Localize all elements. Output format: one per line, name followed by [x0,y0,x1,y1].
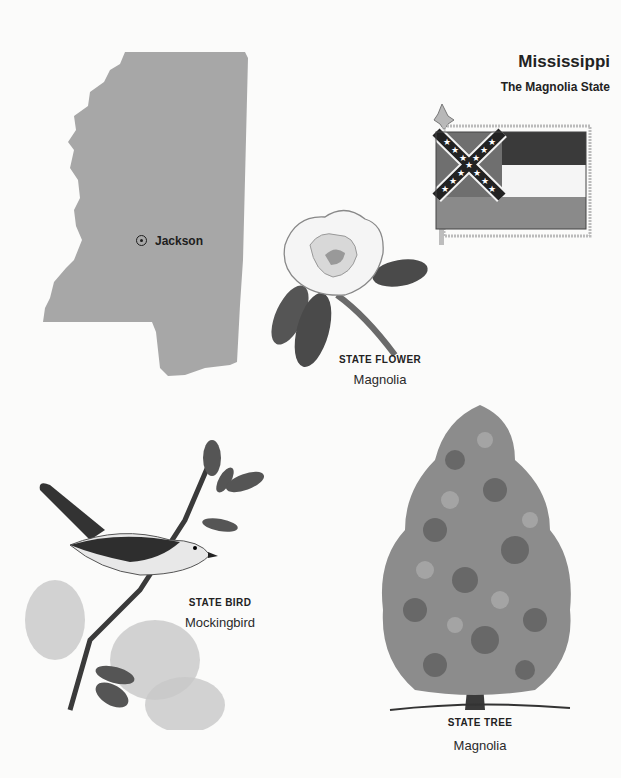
svg-text:★: ★ [473,168,481,178]
state-nickname: The Magnolia State [430,80,610,94]
svg-text:★: ★ [443,137,451,147]
svg-text:★: ★ [472,153,480,163]
state-flag: ★★★ ★★★★ ★★★ ★★★ [424,100,594,250]
mockingbird-illustration-icon [20,430,280,730]
capital-circle-dot-icon [136,235,147,246]
svg-text:★: ★ [449,176,457,186]
magnolia-flower-illustration-icon [265,205,435,375]
state-flower-illustration [265,205,435,375]
svg-text:★: ★ [451,145,459,155]
svg-text:★: ★ [480,145,488,155]
state-bird-name: Mockingbird [165,615,275,630]
state-flag-icon: ★★★ ★★★★ ★★★ ★★★ [424,100,594,250]
state-flower-heading: STATE FLOWER [320,354,440,365]
state-tree-name: Magnolia [430,738,530,753]
state-tree-illustration [375,400,585,720]
magnolia-tree-illustration-icon [375,400,585,720]
state-flower-name: Magnolia [320,372,440,387]
svg-text:★: ★ [488,184,496,194]
svg-text:★: ★ [441,184,449,194]
svg-text:★: ★ [457,168,465,178]
state-name-title: Mississippi [480,52,610,72]
state-bird-illustration [20,430,280,730]
state-tree-heading: STATE TREE [430,717,530,728]
state-outline-map-icon [40,50,260,380]
svg-text:★: ★ [488,137,496,147]
state-map: Jackson [40,50,260,380]
state-bird-heading: STATE BIRD [170,597,270,608]
capital-label: Jackson [155,234,203,248]
